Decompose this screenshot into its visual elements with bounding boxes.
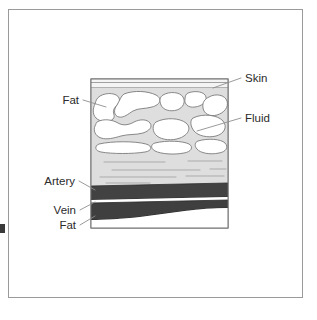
fat-lobule [153,119,189,140]
callout-label-vein: Vein [54,204,76,216]
fat-lobule [160,93,184,111]
callout-label-artery: Artery [44,175,75,187]
figure-root: Skin Fat Fluid Artery Vein Fat [0,0,317,320]
callout-label-fat-lower: Fat [59,219,76,231]
fat-lobule [195,139,227,154]
artery-layer [91,183,228,200]
cross-section-diagram: Skin Fat Fluid Artery Vein Fat [0,0,317,320]
fat-lobule-group [93,91,227,154]
fat-lobule [152,141,192,154]
fat-lobule [96,142,151,154]
callout-label-fat-upper: Fat [62,94,79,106]
skin-layer [91,79,228,88]
callout-label-skin: Skin [245,72,267,84]
callout-label-fluid: Fluid [245,112,270,124]
